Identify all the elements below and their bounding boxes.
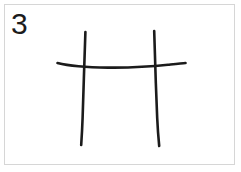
panel-index-label: 3 [11, 9, 28, 39]
sketch-canvas: 3 [0, 0, 241, 172]
sketch-frame-border [4, 4, 235, 165]
